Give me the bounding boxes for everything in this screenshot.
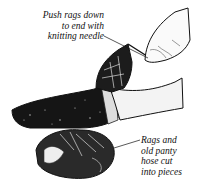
hand bbox=[145, 8, 190, 62]
label-line: Push rags down bbox=[28, 10, 104, 21]
label-line: into pieces bbox=[141, 167, 197, 178]
stocking-top bbox=[96, 44, 132, 92]
label-line: Rags and bbox=[141, 135, 197, 146]
label-line: to end with bbox=[28, 21, 104, 32]
push-rags-label: Push rags down to end with knitting need… bbox=[28, 10, 104, 42]
label-line: hose cut bbox=[141, 156, 197, 167]
label-line: old panty bbox=[141, 146, 197, 157]
label-line: knitting needle bbox=[28, 31, 104, 42]
leader-line-rags bbox=[114, 140, 140, 148]
rags-label: Rags and old panty hose cut into pieces bbox=[141, 135, 197, 177]
